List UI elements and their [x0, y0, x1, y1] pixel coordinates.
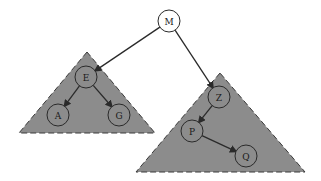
node-label: Q [242, 152, 249, 162]
node-G: G [108, 104, 130, 126]
node-Z: Z [208, 86, 230, 108]
edge-M-E [94, 27, 160, 71]
tree-diagram: MEAGZPQ [0, 0, 321, 181]
node-Q: Q [235, 145, 257, 167]
node-M: M [158, 10, 180, 32]
node-label: P [189, 127, 195, 137]
subtree-left [19, 52, 155, 133]
node-E: E [75, 66, 97, 88]
node-P: P [181, 120, 203, 142]
node-A: A [47, 104, 69, 126]
edge-M-Z [175, 30, 213, 88]
node-label: A [54, 111, 62, 121]
node-label: E [83, 73, 90, 83]
node-label: M [164, 17, 173, 27]
node-label: G [115, 111, 122, 121]
node-label: Z [216, 93, 222, 103]
